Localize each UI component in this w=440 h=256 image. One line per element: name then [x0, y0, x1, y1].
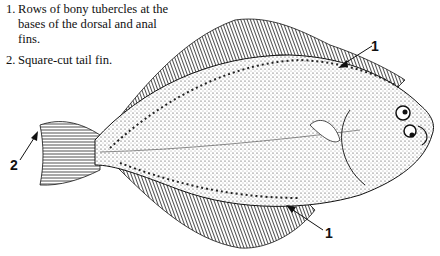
callout-label-1-bottom: 1 — [325, 225, 333, 241]
callout-label-1-top: 1 — [371, 38, 379, 54]
tail-fin — [40, 122, 100, 186]
callout-label-2: 2 — [10, 157, 18, 173]
